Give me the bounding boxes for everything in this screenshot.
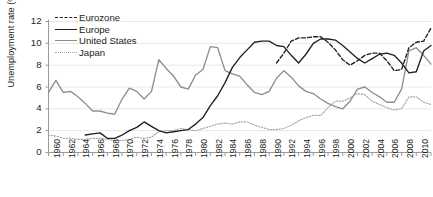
unemployment-rate-line-chart: Unemployment rate (%) 121086420 19601962… (0, 0, 433, 197)
x-tick-label: 1970 (125, 139, 135, 158)
x-tick-label: 1998 (331, 139, 341, 158)
legend-item-united-states: United States (55, 35, 137, 47)
chart-legend: Eurozone Europe United States Japan (55, 12, 137, 58)
series-line-eurozone (277, 28, 431, 71)
x-tick-label: 2000 (346, 139, 356, 158)
x-tick-label: 2002 (361, 139, 371, 158)
x-tick-label: 1968 (111, 139, 121, 158)
eurozone-dashed-key (55, 13, 77, 22)
x-tick-label: 1992 (287, 139, 297, 158)
x-tick-label: 1978 (184, 139, 194, 158)
x-tick-label: 1986 (243, 139, 253, 158)
x-tick-label: 1996 (317, 139, 327, 158)
x-tick-label: 2004 (376, 139, 386, 158)
x-tick-label: 1988 (258, 139, 268, 158)
legend-label-eurozone: Eurozone (79, 12, 120, 23)
x-tick-label: 1994 (302, 139, 312, 158)
x-tick-label: 1974 (155, 139, 165, 158)
x-tick-label: 1980 (199, 139, 209, 158)
x-tick-label: 1990 (273, 139, 283, 158)
x-tick-label: 1982 (214, 139, 224, 158)
x-tick-label: 1962 (67, 139, 77, 158)
x-tick-label: 1976 (170, 139, 180, 158)
europe-solid-key (55, 25, 77, 34)
x-tick-label: 1964 (81, 139, 91, 158)
x-tick-label: 2006 (390, 139, 400, 158)
japan-dotted-key (55, 48, 77, 57)
x-tick-label: 1960 (52, 139, 62, 158)
series-line-europe (85, 39, 431, 138)
legend-item-europe: Europe (55, 24, 137, 36)
legend-label-europe: Europe (79, 24, 110, 35)
legend-item-eurozone: Eurozone (55, 12, 137, 24)
series-line-japan (49, 94, 432, 141)
legend-label-united-states: United States (79, 35, 137, 46)
x-tick-label: 2010 (420, 139, 430, 158)
legend-item-japan: Japan (55, 47, 137, 59)
x-tick-label: 2008 (405, 139, 415, 158)
x-tick-label: 1966 (96, 139, 106, 158)
legend-label-japan: Japan (79, 47, 105, 58)
x-tick-label: 1972 (140, 139, 150, 158)
united-states-solid-key (55, 36, 77, 45)
x-tick-label: 1984 (228, 139, 238, 158)
